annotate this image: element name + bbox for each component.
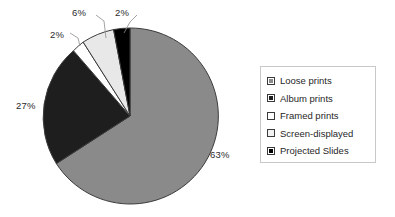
legend-item-screen-displayed: Screen-displayed [267, 125, 375, 143]
legend-label-screen-displayed: Screen-displayed [280, 128, 353, 139]
chart-legend: Loose prints Album prints Framed prints … [260, 66, 376, 163]
legend-item-loose-prints: Loose prints [267, 72, 375, 90]
legend-swatch-icon-loose-prints [267, 77, 275, 85]
leader-line-framed-prints [70, 33, 80, 46]
legend-label-loose-prints: Loose prints [280, 75, 332, 86]
pie-value-label-album-prints: 27% [16, 100, 36, 111]
legend-swatch-icon-album-prints [267, 94, 275, 102]
legend-swatch-icon-framed-prints [267, 112, 275, 120]
pie-value-label-screen-displayed: 6% [72, 7, 86, 18]
legend-label-album-prints: Album prints [280, 93, 333, 104]
legend-label-framed-prints: Framed prints [280, 110, 339, 121]
legend-swatch-icon-projected-slides [267, 147, 275, 155]
pie-chart-figure: 63% 27% 2% 6% 2% Loose prints Album prin… [0, 0, 395, 217]
pie-value-label-loose-prints: 63% [210, 149, 230, 160]
pie-slices [43, 28, 218, 204]
legend-label-projected-slides: Projected Slides [280, 145, 349, 156]
legend-item-album-prints: Album prints [267, 90, 375, 108]
pie-value-label-framed-prints: 2% [50, 29, 64, 40]
legend-swatch-icon-screen-displayed [267, 129, 275, 137]
legend-item-projected-slides: Projected Slides [267, 142, 375, 160]
pie-value-label-projected-slides: 2% [115, 7, 129, 18]
legend-item-framed-prints: Framed prints [267, 107, 375, 125]
